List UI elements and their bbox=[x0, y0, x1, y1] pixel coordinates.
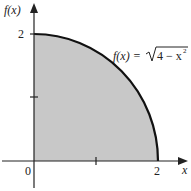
function-label-radicand: 4 − x bbox=[157, 49, 182, 63]
function-label-exponent: 2 bbox=[183, 47, 187, 55]
y-axis-arrow-icon bbox=[30, 3, 38, 13]
x-tick-label: 2 bbox=[154, 164, 160, 178]
y-axis-label: f(x) bbox=[4, 3, 21, 17]
origin-label: 0 bbox=[25, 164, 31, 178]
y-tick-label: 2 bbox=[18, 27, 24, 41]
x-axis-label: x bbox=[181, 163, 188, 177]
quarter-circle-diagram: f(x) 2 0 2 x f(x) = 4 − x 2 bbox=[0, 0, 191, 191]
function-label-lhs: f(x) = bbox=[113, 49, 141, 63]
